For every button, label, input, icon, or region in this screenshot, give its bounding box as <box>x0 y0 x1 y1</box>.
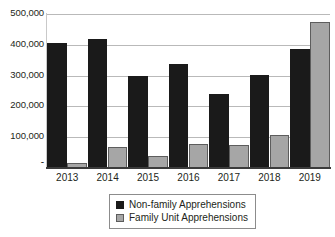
bar-nonfamily-2015 <box>128 76 148 168</box>
x-axis-ticks: 2013201420152016201720182019 <box>47 171 330 185</box>
x-tick-label-2014: 2014 <box>87 171 127 184</box>
bar-group <box>169 14 209 168</box>
bar-group <box>290 14 330 168</box>
x-tick-label-2013: 2013 <box>47 171 87 184</box>
bar-nonfamily-2016 <box>169 64 189 168</box>
bar-family-2019 <box>310 22 330 168</box>
y-tick-label: 200,000 <box>0 100 44 110</box>
legend-item[interactable]: Family Unit Apprehensions <box>116 211 248 224</box>
bar-nonfamily-2019 <box>290 49 310 168</box>
gray-square-icon <box>116 214 124 222</box>
bar-group <box>47 14 87 168</box>
y-axis-ticks: 500,000400,000300,000200,000100,000- <box>0 0 44 237</box>
x-tick-label-2017: 2017 <box>209 171 249 184</box>
x-tick-label-2015: 2015 <box>128 171 168 184</box>
y-tick-label: 500,000 <box>0 8 44 18</box>
y-tick-label: - <box>0 157 44 167</box>
x-axis-line <box>46 167 331 169</box>
legend-item[interactable]: Non-family Apprehensions <box>116 198 248 211</box>
bar-family-2016 <box>189 144 209 168</box>
bar-nonfamily-2018 <box>250 75 270 168</box>
x-tick-label-2018: 2018 <box>249 171 289 184</box>
legend-item-label: Non-family Apprehensions <box>129 199 246 211</box>
bar-nonfamily-2014 <box>88 39 108 168</box>
y-tick-label: 300,000 <box>0 70 44 80</box>
bar-nonfamily-2013 <box>47 43 67 168</box>
plot-area <box>47 14 330 168</box>
x-tick-label-2016: 2016 <box>168 171 208 184</box>
bar-family-2018 <box>270 135 290 168</box>
legend-item-label: Family Unit Apprehensions <box>129 212 248 224</box>
chart-legend: Non-family ApprehensionsFamily Unit Appr… <box>109 194 256 229</box>
bar-chart-figure: 500,000400,000300,000200,000100,000- 201… <box>0 0 335 237</box>
bar-group <box>88 14 128 168</box>
bar-family-2017 <box>229 145 249 168</box>
y-tick-label: 400,000 <box>0 39 44 49</box>
y-tick-label: 100,000 <box>0 131 44 141</box>
black-square-icon <box>116 201 124 209</box>
x-tick-label-2019: 2019 <box>290 171 330 184</box>
bar-group <box>250 14 290 168</box>
bar-nonfamily-2017 <box>209 94 229 168</box>
bar-group <box>128 14 168 168</box>
bar-group <box>209 14 249 168</box>
bar-family-2014 <box>108 147 128 168</box>
